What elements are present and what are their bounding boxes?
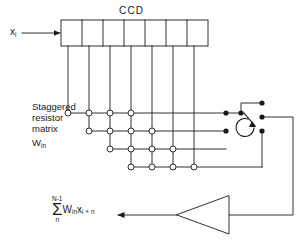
- matrix-rows: [68, 113, 262, 167]
- equation-weight: W: [63, 204, 72, 215]
- weight-letter: W: [32, 137, 41, 148]
- switch-contact-2: [238, 110, 243, 115]
- switch-contact-3: [223, 128, 228, 133]
- matrix-label-line1: Staggered: [32, 101, 76, 112]
- matrix-weight-symbol: Win: [32, 137, 76, 149]
- switch-contact-1: [259, 100, 264, 105]
- output-equation: N-1 Σ n Winxi + n: [52, 196, 95, 224]
- row1-to-switch: [241, 103, 262, 113]
- amplifier-symbol: [177, 196, 229, 234]
- switch-contact-4: [259, 128, 264, 133]
- matrix-label: Staggered resistor matrix Win: [32, 101, 76, 149]
- switch-contact-5: [223, 110, 228, 115]
- input-signal-subscript: i: [15, 31, 16, 38]
- switch-contacts[interactable]: [223, 100, 264, 133]
- switch-wiper[interactable]: [236, 113, 256, 136]
- ccd-register: [61, 20, 208, 46]
- input-signal-label: xi: [10, 26, 16, 38]
- equation-signal-subscript: i + n: [82, 208, 94, 215]
- summation-limits: N-1 Σ n: [52, 196, 63, 224]
- matrix-label-line3: matrix: [32, 123, 76, 134]
- weight-subscript: in: [41, 141, 46, 148]
- diagram-canvas: CCD xi Staggered resistor matrix Win N-1…: [0, 0, 305, 241]
- ccd-label: CCD: [119, 5, 144, 17]
- switch-common-node: [259, 114, 264, 119]
- matrix-label-line2: resistor: [32, 112, 76, 123]
